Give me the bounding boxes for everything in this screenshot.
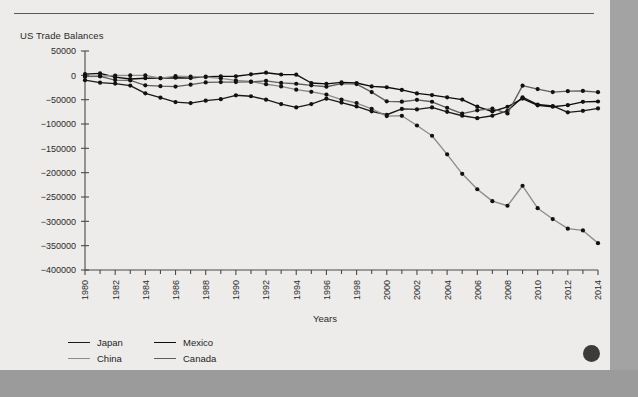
y-tick-label: 0 bbox=[71, 71, 76, 81]
data-point bbox=[581, 228, 585, 232]
x-tick-label: 1982 bbox=[111, 280, 121, 300]
y-tick-label: −200000 bbox=[41, 168, 76, 178]
legend-row: ChinaCanada bbox=[68, 350, 328, 366]
data-point bbox=[551, 90, 555, 94]
data-point bbox=[460, 98, 464, 102]
x-tick-label: 2014 bbox=[593, 280, 603, 300]
data-point bbox=[460, 172, 464, 176]
data-point bbox=[128, 78, 132, 82]
data-point bbox=[83, 74, 87, 78]
data-point bbox=[279, 102, 283, 106]
legend-item-mexico[interactable]: Mexico bbox=[154, 337, 240, 348]
data-point bbox=[294, 73, 298, 77]
data-point bbox=[370, 90, 374, 94]
data-point bbox=[445, 152, 449, 156]
data-point bbox=[189, 83, 193, 87]
data-point bbox=[354, 101, 358, 105]
legend-item-china[interactable]: China bbox=[68, 353, 154, 364]
x-tick-label: 2010 bbox=[533, 280, 543, 300]
data-point bbox=[505, 204, 509, 208]
data-point bbox=[490, 114, 494, 118]
data-point bbox=[339, 97, 343, 101]
x-tick-label: 1988 bbox=[201, 280, 211, 300]
legend-swatch-japan bbox=[68, 342, 90, 343]
data-point bbox=[415, 98, 419, 102]
data-point bbox=[158, 76, 162, 80]
data-point bbox=[234, 80, 238, 84]
data-point bbox=[324, 85, 328, 89]
legend-item-canada[interactable]: Canada bbox=[154, 353, 240, 364]
data-point bbox=[249, 72, 253, 76]
data-point bbox=[551, 217, 555, 221]
data-point bbox=[415, 107, 419, 111]
data-point bbox=[400, 107, 404, 111]
data-point bbox=[415, 91, 419, 95]
data-point bbox=[566, 227, 570, 231]
data-point bbox=[581, 100, 585, 104]
y-tick-label: −250000 bbox=[41, 192, 76, 202]
data-point bbox=[475, 108, 479, 112]
x-tick-label: 1998 bbox=[352, 280, 362, 300]
data-point bbox=[189, 101, 193, 105]
legend-label: China bbox=[97, 353, 122, 364]
data-point bbox=[596, 106, 600, 110]
chart-legend: JapanMexicoChinaCanada bbox=[68, 334, 328, 366]
x-tick-label: 1980 bbox=[80, 280, 90, 300]
data-point bbox=[234, 74, 238, 78]
y-tick-label: −150000 bbox=[41, 144, 76, 154]
data-point bbox=[370, 84, 374, 88]
data-point bbox=[219, 97, 223, 101]
data-point bbox=[279, 72, 283, 76]
data-point bbox=[294, 105, 298, 109]
data-point bbox=[309, 83, 313, 87]
data-point bbox=[309, 90, 313, 94]
data-point bbox=[324, 92, 328, 96]
data-point bbox=[385, 85, 389, 89]
data-point bbox=[520, 184, 524, 188]
legend-item-japan[interactable]: Japan bbox=[68, 337, 154, 348]
legend-swatch-china bbox=[68, 358, 90, 359]
page-corner-dot bbox=[583, 345, 600, 362]
data-point bbox=[430, 134, 434, 138]
data-point bbox=[264, 79, 268, 83]
data-point bbox=[143, 83, 147, 87]
data-point bbox=[445, 110, 449, 114]
data-point bbox=[445, 95, 449, 99]
data-point bbox=[581, 89, 585, 93]
data-point bbox=[279, 81, 283, 85]
data-point bbox=[219, 76, 223, 80]
data-point bbox=[204, 99, 208, 103]
legend-label: Mexico bbox=[183, 337, 213, 348]
data-point bbox=[189, 75, 193, 79]
data-point bbox=[204, 75, 208, 79]
legend-swatch-canada bbox=[154, 358, 176, 359]
y-tick-label: −50000 bbox=[46, 95, 76, 105]
data-point bbox=[249, 94, 253, 98]
data-point bbox=[143, 73, 147, 77]
x-tick-label: 1990 bbox=[231, 280, 241, 300]
data-point bbox=[505, 111, 509, 115]
x-tick-label: 2000 bbox=[382, 280, 392, 300]
data-point bbox=[415, 123, 419, 127]
data-point bbox=[339, 82, 343, 86]
line-chart: 500000−50000−100000−150000−200000−250000… bbox=[0, 0, 610, 370]
x-tick-label: 2006 bbox=[473, 280, 483, 300]
legend-row: JapanMexico bbox=[68, 334, 328, 350]
x-tick-label: 2004 bbox=[443, 280, 453, 300]
x-tick-label: 2008 bbox=[503, 280, 513, 300]
data-point bbox=[173, 100, 177, 104]
data-point bbox=[173, 85, 177, 89]
data-point bbox=[596, 90, 600, 94]
data-point bbox=[400, 114, 404, 118]
data-point bbox=[370, 107, 374, 111]
legend-label: Canada bbox=[183, 353, 216, 364]
data-point bbox=[430, 100, 434, 104]
data-point bbox=[113, 78, 117, 82]
data-point bbox=[385, 114, 389, 118]
data-point bbox=[309, 102, 313, 106]
x-tick-label: 1994 bbox=[292, 280, 302, 300]
data-point bbox=[536, 206, 540, 210]
data-point bbox=[400, 88, 404, 92]
x-tick-label: 2002 bbox=[412, 280, 422, 300]
x-tick-label: 1984 bbox=[141, 280, 151, 300]
